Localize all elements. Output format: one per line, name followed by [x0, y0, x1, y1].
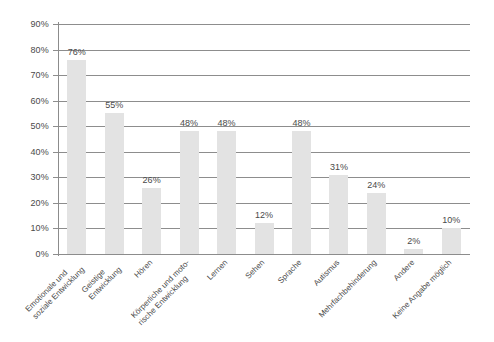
x-axis-category-label: Emotionale und soziale Entwicklung — [23, 258, 86, 321]
gridline: 10% — [58, 228, 470, 229]
x-axis-category-label: Sehen — [244, 258, 267, 281]
y-axis-line — [58, 22, 59, 256]
x-axis-category-label: Lernen — [205, 258, 229, 282]
x-axis-category-label: Geistige Entwicklung — [80, 258, 124, 302]
x-axis-category-label: Andere — [392, 258, 417, 283]
bar-chart: 0%10%20%30%40%50%60%70%80%90% 76%55%26%4… — [0, 0, 494, 342]
gridline: 50% — [58, 126, 470, 127]
y-axis-tick-label: 30% — [30, 172, 49, 182]
gridline: 20% — [58, 203, 470, 204]
y-axis-tick-label: 90% — [30, 19, 49, 29]
gridline: 60% — [58, 101, 470, 102]
x-axis-category-label: Sprache — [276, 258, 304, 286]
gridline: 80% — [58, 50, 470, 51]
y-axis-tick-label: 60% — [30, 96, 49, 106]
y-axis-tick-label: 40% — [30, 147, 49, 157]
gridline: 70% — [58, 75, 470, 76]
y-axis-tick-label: 20% — [30, 198, 49, 208]
gridline: 30% — [58, 177, 470, 178]
x-axis-baseline: 0% — [58, 254, 470, 255]
y-axis-tick-label: 0% — [36, 249, 49, 259]
y-axis-tick-label: 10% — [30, 223, 49, 233]
x-axis-category-label: Autismus — [312, 258, 342, 288]
x-axis-category-label: Hören — [132, 258, 154, 280]
y-axis-tick-label: 70% — [30, 70, 49, 80]
y-axis-tick-label: 80% — [30, 45, 49, 55]
gridline: 90% — [58, 24, 470, 25]
y-axis-tick-label: 50% — [30, 121, 49, 131]
x-axis-category-labels: Emotionale und soziale EntwicklungGeisti… — [58, 258, 470, 342]
plot-area: 0%10%20%30%40%50%60%70%80%90% — [58, 24, 470, 254]
gridline: 40% — [58, 152, 470, 153]
